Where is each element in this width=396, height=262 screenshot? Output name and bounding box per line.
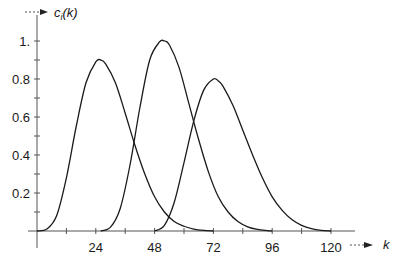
x-tick-label: 72 xyxy=(206,240,220,255)
y-tick-label: 0.6 xyxy=(12,110,30,125)
y-tick-label: 0.8 xyxy=(12,72,30,87)
line-chart: 244872961200.20.40.60.81. k ci(k) xyxy=(0,0,396,262)
x-tick-label: 120 xyxy=(320,240,342,255)
x-axis-label: k xyxy=(383,237,391,252)
curve-2 xyxy=(101,40,273,231)
curve-3 xyxy=(155,78,331,231)
y-axis-arrow-icon xyxy=(40,9,48,15)
chart-container: 244872961200.20.40.60.81. k ci(k) xyxy=(0,0,396,262)
x-tick-label: 96 xyxy=(265,240,279,255)
tick-labels: 244872961200.20.40.60.81. xyxy=(12,34,342,255)
y-tick-label: 1. xyxy=(19,34,30,49)
curves xyxy=(37,40,331,231)
x-axis-arrow-icon xyxy=(364,242,373,248)
y-tick-label: 0.2 xyxy=(12,186,30,201)
curve-1 xyxy=(37,59,213,231)
y-axis-label: ci(k) xyxy=(54,5,78,22)
x-tick-label: 24 xyxy=(89,240,103,255)
axes xyxy=(25,9,373,248)
y-tick-label: 0.4 xyxy=(12,148,30,163)
x-tick-label: 48 xyxy=(147,240,161,255)
